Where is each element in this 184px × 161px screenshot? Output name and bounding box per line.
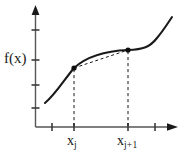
x-tick-label-xj1-base: x: [117, 133, 124, 148]
x-tick-label-xj1-subscript: j+1: [124, 140, 137, 150]
y-axis-arrowhead: [32, 5, 40, 15]
y-axis-label: f(x): [4, 51, 27, 66]
function-plot-figure: f(x) xj xj+1: [0, 0, 184, 161]
marked-point-xj: [71, 65, 76, 70]
secant-chord-dashed: [74, 50, 128, 68]
x-axis-arrowhead: [167, 123, 178, 131]
x-tick-label-xj-base: x: [67, 133, 74, 148]
x-tick-label-xj1: xj+1: [117, 134, 137, 151]
axes-group: [32, 5, 178, 131]
x-tick-label-xj-subscript: j: [74, 140, 77, 150]
plot-canvas: [0, 0, 184, 161]
marked-point-xj1: [125, 47, 130, 52]
x-tick-label-xj: xj: [67, 134, 77, 151]
function-curve: [45, 17, 172, 103]
